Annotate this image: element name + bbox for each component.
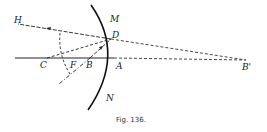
- label-D: D: [111, 30, 119, 40]
- label-H: H: [13, 15, 22, 25]
- label-B: B: [85, 60, 93, 70]
- mirror-diagram: H M D C F B A N B' Fig. 136.: [0, 0, 267, 132]
- reflected-ray: [18, 24, 111, 39]
- label-C: C: [40, 60, 47, 70]
- dashed-arc: [60, 33, 70, 74]
- virtual-ray: [111, 39, 246, 60]
- axis-extension: [114, 58, 246, 60]
- label-B-prime: B': [241, 62, 251, 72]
- figure-caption: Fig. 136.: [116, 116, 146, 124]
- label-F: F: [69, 60, 77, 70]
- label-A: A: [115, 61, 123, 71]
- label-M: M: [109, 14, 120, 24]
- label-N: N: [105, 93, 115, 103]
